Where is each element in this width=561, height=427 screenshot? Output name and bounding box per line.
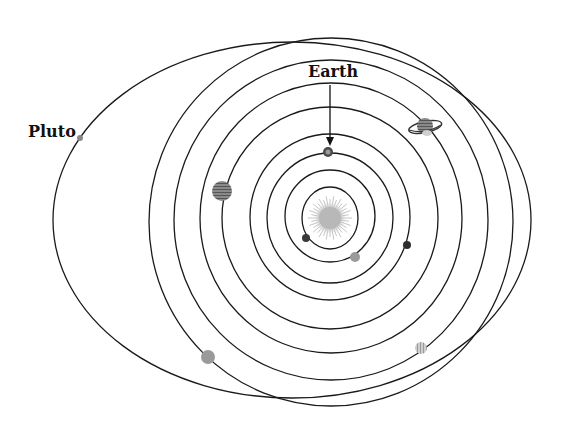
- saturn-icon: [408, 118, 443, 136]
- pluto-label: Pluto: [28, 124, 76, 140]
- earth-icon: [323, 147, 333, 157]
- neptune-icon: [201, 350, 215, 364]
- pluto-icon: [77, 135, 83, 141]
- orbit-group: [53, 38, 531, 406]
- earth-label: Earth: [308, 64, 358, 80]
- earth-pointer-arrow: [326, 85, 334, 146]
- planet-group: [77, 118, 443, 364]
- jupiter-icon: [212, 181, 232, 201]
- uranus-icon: [415, 342, 427, 354]
- solar-system-diagram: [0, 0, 561, 427]
- mars-icon: [403, 241, 411, 249]
- pluto-orbit: [53, 42, 531, 398]
- sun-icon: [308, 196, 352, 239]
- mercury-icon: [302, 234, 310, 242]
- venus-icon: [350, 252, 360, 262]
